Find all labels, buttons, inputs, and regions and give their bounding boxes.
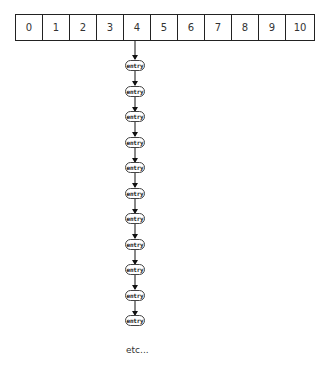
entry-node: entry [125, 86, 145, 97]
entry-node: entry [125, 137, 145, 148]
entry-node: entry [125, 213, 145, 224]
entry-node: entry [125, 60, 145, 71]
entry-node: entry [125, 264, 145, 275]
chain-arrows [0, 0, 328, 369]
entry-node: entry [125, 111, 145, 122]
entry-node: entry [125, 188, 145, 199]
entry-node: entry [125, 315, 145, 326]
entry-node: entry [125, 162, 145, 173]
entry-node: entry [125, 290, 145, 301]
continuation-label: etc... [126, 345, 149, 355]
entry-node: entry [125, 239, 145, 250]
